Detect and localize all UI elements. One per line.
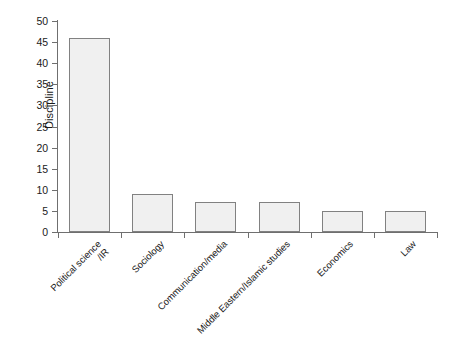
y-tick-label: 35: [18, 79, 48, 89]
x-axis-category-label: Economics: [235, 239, 356, 360]
y-tick-label: 50: [18, 16, 48, 26]
x-tick-mark: [374, 233, 375, 238]
bar: [132, 194, 173, 232]
bar: [385, 211, 426, 232]
x-tick-mark: [58, 233, 59, 238]
y-tick-label: 25: [18, 122, 48, 132]
y-tick-label: 45: [18, 37, 48, 47]
bar: [69, 38, 110, 232]
y-tick-label: 20: [18, 143, 48, 153]
y-tick-label: 30: [18, 100, 48, 110]
bar-chart: Discipline 05101520253035404550 Politica…: [0, 0, 458, 363]
x-axis-category-label: Law: [298, 239, 419, 360]
y-tick-label: 10: [18, 185, 48, 195]
x-tick-mark: [248, 233, 249, 238]
x-tick-mark: [184, 233, 185, 238]
bar: [322, 211, 363, 232]
y-tick-label: 15: [18, 164, 48, 174]
plot-area: [58, 21, 437, 232]
y-tick-label: 5: [18, 206, 48, 216]
y-tick-label: 0: [18, 227, 48, 237]
x-tick-mark: [121, 233, 122, 238]
x-tick-mark: [311, 233, 312, 238]
x-tick-mark: [437, 233, 438, 238]
x-axis-category-label: Communication/media: [109, 239, 230, 360]
bar: [259, 202, 300, 232]
bar: [195, 202, 236, 232]
x-axis-category-label: Middle Eastern/Islamic studies: [172, 239, 293, 360]
y-tick-label: 40: [18, 58, 48, 68]
